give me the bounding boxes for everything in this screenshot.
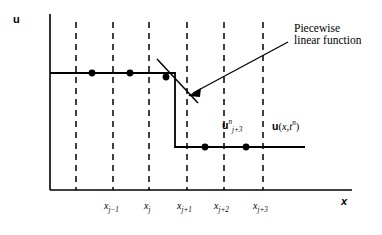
solution-label: u(x,tn) <box>272 120 299 132</box>
data-point <box>202 144 209 151</box>
tick-label-x-j-plus-3: xj+3 <box>253 201 268 215</box>
x-axis-label: x <box>341 196 347 208</box>
annotation-line-1: Piecewise <box>294 22 361 34</box>
y-axis-label: u <box>13 14 20 26</box>
tick-sub: j−1 <box>108 206 118 214</box>
tick-label-x-j-plus-1: xj+1 <box>177 201 192 215</box>
tick-sub: j+3 <box>257 206 267 214</box>
tick-label-x-j-plus-2: xj+2 <box>214 201 229 215</box>
annotation-leader-line <box>193 42 288 93</box>
data-point <box>127 70 134 77</box>
piecewise-linear-annotation: Piecewise linear function <box>294 22 361 47</box>
tick-sub: j <box>148 206 150 214</box>
data-point <box>243 144 250 151</box>
tick-sub: j+2 <box>218 206 228 214</box>
tick-sub: j+1 <box>181 206 191 214</box>
step-function-curve <box>50 73 305 147</box>
node-value-subscript: j+3 <box>232 126 242 134</box>
annotation-line-2: linear function <box>294 34 361 46</box>
solution-close-paren: ) <box>296 121 300 132</box>
piecewise-linear-segment <box>157 59 198 103</box>
dashed-gridlines <box>76 22 263 190</box>
tick-label-x-j: xj <box>144 201 150 215</box>
data-point <box>163 74 170 81</box>
annotation-arrowhead <box>188 88 201 97</box>
node-value-label: unj+3 <box>222 119 242 134</box>
data-point <box>89 70 96 77</box>
tick-label-x-j-minus-1: xj−1 <box>104 201 119 215</box>
piecewise-linear-reconstruction-figure: u x xj−1 xj xj+1 xj+2 xj+3 Piecewise lin… <box>0 0 382 235</box>
